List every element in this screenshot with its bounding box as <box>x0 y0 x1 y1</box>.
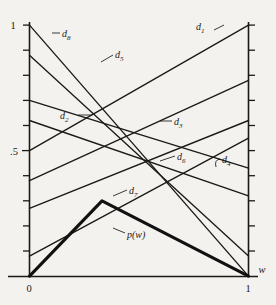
leader-d7 <box>113 190 127 196</box>
label-d3: d3 <box>174 116 183 130</box>
label-p-of-w: p(w) <box>126 229 146 241</box>
y-tick-label-mid: .5 <box>10 146 18 157</box>
figure-root: d8 d5 d1 d2 d3 d6 d4 d7 p(w) 1 .5 0 1 w <box>0 0 276 305</box>
leader-d5 <box>101 55 113 62</box>
y-axis-left-ticks <box>22 25 30 251</box>
label-d5: d5 <box>115 49 124 63</box>
y-axis-right-ticks <box>249 25 256 251</box>
label-d6: d6 <box>177 151 186 165</box>
plot-canvas: d8 d5 d1 d2 d3 d6 d4 d7 p(w) 1 .5 0 1 w <box>0 0 276 305</box>
leader-d4 <box>216 159 221 167</box>
x-axis-label: w <box>258 264 265 275</box>
y-tick-label-top: 1 <box>10 20 15 31</box>
line-d1 <box>30 25 249 151</box>
label-d7: d7 <box>129 185 138 199</box>
x-tick-label-left: 0 <box>26 283 31 294</box>
leader-lines-group <box>52 25 224 233</box>
label-d1: d1 <box>196 21 205 35</box>
label-d4: d4 <box>222 154 231 168</box>
leader-d1 <box>214 25 224 30</box>
leader-pw <box>113 228 125 233</box>
x-tick-label-right: 1 <box>245 283 250 294</box>
leader-d6 <box>160 156 175 161</box>
label-d8: d8 <box>62 28 71 42</box>
